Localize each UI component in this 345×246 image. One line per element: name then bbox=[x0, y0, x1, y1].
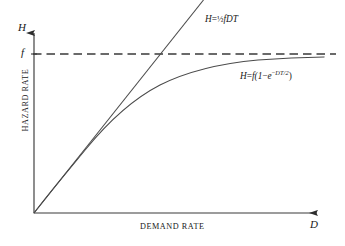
exp-eq-rhs-prefix: f(1 bbox=[252, 71, 262, 81]
linear-equation-label: H=½fDT bbox=[205, 15, 238, 24]
exp-eq-rhs-suffix: ) bbox=[289, 71, 292, 81]
y-axis-symbol: H bbox=[18, 22, 26, 33]
exp-eq-exponent-value: DT/2 bbox=[275, 69, 288, 76]
linear-eq-lhs: H bbox=[205, 14, 212, 24]
linear-eq-rhs: fDT bbox=[223, 14, 237, 24]
exponential-equation-label: H=f(1−e−DT/2) bbox=[240, 70, 292, 81]
exp-eq-exponent: −DT/2 bbox=[272, 69, 289, 76]
plot-canvas bbox=[0, 0, 345, 246]
exp-eq-lhs: H bbox=[240, 71, 247, 81]
x-axis-title: DEMAND RATE bbox=[140, 223, 205, 231]
x-axis-symbol: D bbox=[310, 219, 318, 230]
hazard-rate-vs-demand-rate-figure: H D f HAZARD RATE DEMAND RATE H=½fDT H=f… bbox=[0, 0, 345, 246]
y-axis-title: HAZARD RATE bbox=[22, 52, 30, 148]
